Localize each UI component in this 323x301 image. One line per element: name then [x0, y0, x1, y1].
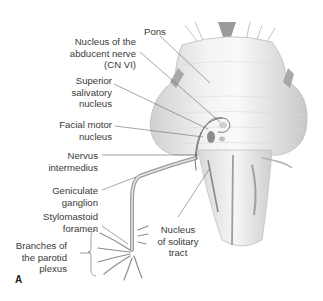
- facial-motor-nucleus: [207, 131, 215, 143]
- label-geniculate-ganglion: Geniculate ganglion: [30, 185, 98, 208]
- label-superior-salivatory-nucleus: Superior salivatory nucleus: [50, 75, 112, 110]
- superior-salivatory-nucleus: [219, 137, 225, 142]
- label-abducent-nucleus: Nucleus of the abducent nerve (CN VI): [60, 36, 136, 71]
- panel-letter: A: [15, 274, 22, 285]
- label-pons: Pons: [144, 26, 166, 38]
- label-stylomastoid-foramen: Stylomastoid foramen: [20, 211, 98, 234]
- label-solitary-tract-nucleus: Nucleus of solitary tract: [148, 224, 208, 259]
- label-nervus-intermedius: Nervus intermedius: [30, 150, 98, 173]
- abducent-nucleus: [219, 122, 227, 128]
- label-parotid-plexus-branches: Branches of the parotid plexus: [5, 240, 67, 275]
- label-facial-motor-nucleus: Facial motor nucleus: [40, 119, 112, 142]
- parotid-branches: [98, 226, 148, 280]
- median-fissure: [232, 155, 233, 245]
